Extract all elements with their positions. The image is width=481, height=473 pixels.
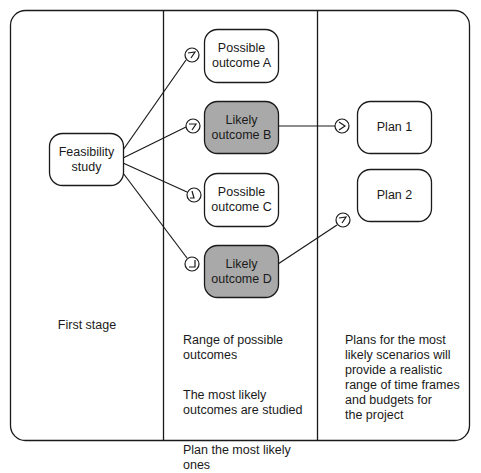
node-outcome-b: Likely outcome B xyxy=(204,101,279,154)
node-plan-1: Plan 1 xyxy=(357,101,432,154)
node-outcome-d: Likely outcome D xyxy=(204,245,279,298)
caption-plans-text: Plans for the most likely scenarios will… xyxy=(345,333,467,423)
arrow-circle-icon xyxy=(336,213,350,227)
caption-first-stage: First stage xyxy=(11,318,163,333)
arrow-circle-icon xyxy=(335,119,349,133)
caption-outcomes-range: Range of possible outcomes xyxy=(183,333,315,363)
caption-outcomes: Range of possible outcomes The most like… xyxy=(183,318,315,473)
node-outcome-a: Possible outcome A xyxy=(204,29,279,83)
arrow-circle-icon xyxy=(185,257,199,271)
node-feasibility: Feasibility study xyxy=(49,133,124,186)
arrow-circle-icon xyxy=(186,119,200,133)
node-plan-2: Plan 2 xyxy=(357,169,432,222)
arrow-circle-icon xyxy=(185,48,199,62)
caption-outcomes-plan: Plan the most likely ones xyxy=(183,443,315,473)
node-outcome-c: Possible outcome C xyxy=(204,173,279,227)
caption-outcomes-studied: The most likely outcomes are studied xyxy=(183,388,315,418)
arrow-circle-icon xyxy=(187,188,201,202)
caption-plans: Plans for the most likely scenarios will… xyxy=(345,318,467,448)
